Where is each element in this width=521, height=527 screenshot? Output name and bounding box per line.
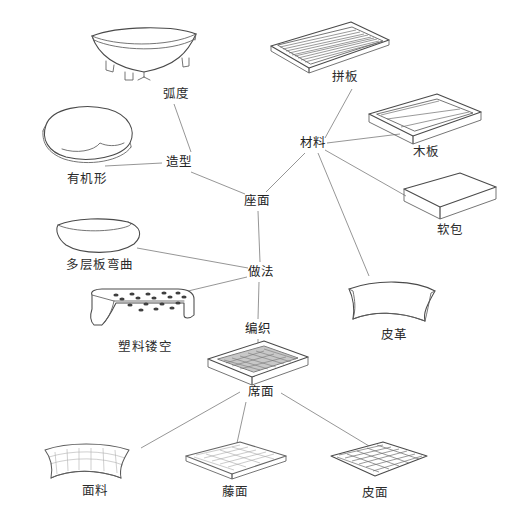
edge-cailiao-pige (318, 153, 369, 276)
node-hudu[interactable]: 弧度 (163, 88, 190, 101)
node-zuofa[interactable]: 做法 (248, 266, 275, 279)
fabric-swatch-sketch (41, 440, 149, 484)
node-duocengban[interactable]: 多层板弯曲 (66, 259, 134, 272)
woven-mat-tray-sketch (202, 337, 314, 387)
node-zuomian[interactable]: 座面 (244, 195, 271, 208)
curved-dish-seat-sketch (84, 22, 204, 84)
edge-zaoxing-zuomian (191, 172, 245, 194)
edge-hudu-zaoxing (174, 104, 191, 152)
organic-blob-seat-sketch (32, 101, 142, 167)
edge-cailiao-ruanbao (325, 150, 406, 196)
node-tengmian[interactable]: 藤面 (222, 486, 249, 499)
edge-zuofa-bianzhi (258, 282, 259, 319)
node-pimian[interactable]: 皮面 (362, 487, 389, 500)
woven-leather-grid-sketch (325, 438, 433, 484)
node-ruanbao[interactable]: 软包 (437, 224, 464, 237)
node-pige[interactable]: 皮革 (381, 329, 408, 342)
node-pinban[interactable]: 拼板 (332, 71, 359, 84)
edge-ximian-tengmian (237, 402, 246, 443)
slatted-wood-panel-sketch (267, 18, 393, 78)
node-suliaolaokong[interactable]: 塑料镂空 (118, 341, 172, 354)
wood-board-tray-sketch (365, 90, 485, 148)
edge-zuomian-zuofa (258, 211, 260, 262)
soft-cushion-pad-sketch (398, 169, 502, 223)
edge-cailiao-pinban (325, 89, 352, 138)
node-youjixing[interactable]: 有机形 (67, 173, 108, 186)
edge-zuofa-duocengban (137, 248, 248, 268)
node-mianliao[interactable]: 面料 (82, 485, 109, 498)
bent-plywood-shell-sketch (52, 215, 148, 259)
node-cailiao[interactable]: 材料 (300, 137, 327, 150)
leather-sheet-sketch (339, 277, 445, 329)
node-zaoxing[interactable]: 造型 (166, 156, 193, 169)
diagram-canvas: 座面 造型 材料 做法 编织 席面 弧度 有机形 拼板 木板 软包 皮革 多层板… (0, 0, 521, 527)
node-muban[interactable]: 木板 (413, 146, 440, 159)
rattan-panel-sketch (182, 438, 292, 484)
edge-zuomian-cailiao (266, 153, 305, 192)
node-ximian[interactable]: 席面 (248, 386, 275, 399)
perforated-plastic-sketch (86, 281, 200, 339)
node-bianzhi[interactable]: 编织 (245, 323, 272, 336)
